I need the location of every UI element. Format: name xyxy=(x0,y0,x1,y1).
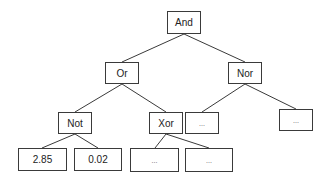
edge-xor-right xyxy=(166,134,209,148)
node-label: ... xyxy=(152,157,158,164)
node-xor-left-ellipsis: ... xyxy=(130,148,179,172)
node-label: 0.02 xyxy=(88,154,107,165)
edge-and-or xyxy=(122,34,184,62)
edge-or-not xyxy=(75,84,122,112)
node-nor: Nor xyxy=(228,62,262,84)
node-label: ... xyxy=(199,120,205,127)
node-nor-right-ellipsis: ... xyxy=(279,109,313,131)
edge-not-285 xyxy=(42,134,75,148)
node-label: ... xyxy=(293,117,299,124)
edge-nor-left xyxy=(202,84,245,112)
node-label: Or xyxy=(116,68,127,79)
node-label: Xor xyxy=(158,118,174,129)
node-nor-left-ellipsis: ... xyxy=(185,112,219,134)
edge-nor-right xyxy=(245,84,296,109)
node-and: And xyxy=(167,11,201,34)
edge-and-nor xyxy=(184,34,245,62)
node-label: Not xyxy=(67,118,83,129)
node-not: Not xyxy=(58,112,92,134)
node-label: ... xyxy=(206,157,212,164)
node-label: 2.85 xyxy=(33,154,52,165)
node-or: Or xyxy=(105,62,139,84)
node-xor: Xor xyxy=(149,112,183,134)
node-label: Nor xyxy=(237,68,253,79)
edge-not-002 xyxy=(75,134,98,148)
node-label: And xyxy=(175,17,193,28)
node-leaf-2-85: 2.85 xyxy=(18,148,67,171)
node-xor-right-ellipsis: ... xyxy=(185,148,233,172)
node-leaf-0-02: 0.02 xyxy=(74,148,122,171)
edge-or-xor xyxy=(122,84,166,112)
edge-xor-left xyxy=(155,134,166,148)
